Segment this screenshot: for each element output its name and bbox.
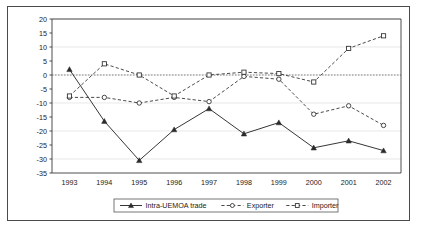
data-point-marker <box>207 73 211 77</box>
y-tick-label: -30 <box>37 155 47 164</box>
data-point-marker <box>312 112 316 116</box>
y-tick-label: 20 <box>39 15 47 24</box>
y-tick-label: 5 <box>43 57 47 66</box>
legend-label-importer: Importer <box>312 201 339 210</box>
data-point-marker <box>207 99 211 103</box>
data-point-marker <box>242 70 246 74</box>
data-point-marker <box>347 46 351 50</box>
x-tick-label: 2002 <box>376 178 392 187</box>
y-tick-label: -25 <box>37 141 47 150</box>
x-tick-label: 1995 <box>131 178 147 187</box>
y-tick-label: -20 <box>37 127 47 136</box>
y-tick-label: 0 <box>43 71 47 80</box>
y-tick-label: -5 <box>41 85 47 94</box>
legend-marker-sample <box>295 204 299 208</box>
x-tick-label: 2001 <box>341 178 357 187</box>
chart-figure-frame: 20151050-5-10-15-20-25-30-35 19931994199… <box>7 6 410 221</box>
data-point-marker <box>102 95 106 99</box>
data-point-marker <box>277 72 281 76</box>
y-tick-label: -35 <box>37 169 47 178</box>
x-tick-label: 1993 <box>61 178 77 187</box>
data-point-marker <box>381 34 385 38</box>
data-point-marker <box>67 94 71 98</box>
legend-label-exporter: Exporter <box>247 201 275 210</box>
x-tick-label: 1997 <box>201 178 217 187</box>
data-point-marker <box>102 62 106 66</box>
x-tick-label: 1996 <box>166 178 182 187</box>
chart-legend: Intra-UEMOA tradeExporterImporter <box>114 199 339 212</box>
data-point-marker <box>242 74 246 78</box>
x-tick-label: 1994 <box>96 178 112 187</box>
data-point-marker <box>172 94 176 98</box>
x-tick-label: 1998 <box>236 178 252 187</box>
line-chart: 20151050-5-10-15-20-25-30-35 19931994199… <box>8 7 409 220</box>
data-point-marker <box>346 104 350 108</box>
legend-label-intra-uemoa-trade: Intra-UEMOA trade <box>146 201 207 210</box>
y-tick-label: 15 <box>39 29 47 38</box>
plot-background <box>8 7 409 220</box>
y-tick-label: -15 <box>37 113 47 122</box>
y-tick-label: -10 <box>37 99 47 108</box>
y-tick-label: 10 <box>39 43 47 52</box>
data-point-marker <box>277 77 281 81</box>
data-point-marker <box>137 73 141 77</box>
legend-marker-sample <box>230 204 234 208</box>
x-tick-label: 1999 <box>271 178 287 187</box>
data-point-marker <box>312 80 316 84</box>
x-tick-label: 2000 <box>306 178 322 187</box>
data-point-marker <box>137 101 141 105</box>
data-point-marker <box>381 123 385 127</box>
